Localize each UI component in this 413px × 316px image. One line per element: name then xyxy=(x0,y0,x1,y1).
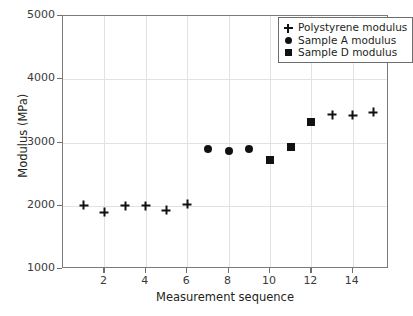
gridline-vertical xyxy=(146,16,147,267)
circle-marker-icon-glyph xyxy=(285,37,292,44)
gridline-vertical xyxy=(187,16,188,267)
x-axis-tick-label: 14 xyxy=(337,275,367,286)
y-axis-tick-label: 5000 xyxy=(27,9,55,20)
legend-entry: Polystyrene modulus xyxy=(283,22,407,34)
plus-marker-icon xyxy=(348,111,357,120)
y-axis-title: Modulus (MPa) xyxy=(18,66,30,206)
x-axis-tick-label: 4 xyxy=(130,275,160,286)
circle-marker-icon xyxy=(225,147,233,155)
y-axis-tick-label: 2000 xyxy=(27,199,55,210)
x-axis-title: Measurement sequence xyxy=(62,292,388,304)
gridline-horizontal xyxy=(63,143,387,144)
plus-marker-icon xyxy=(121,201,130,210)
circle-marker-icon xyxy=(204,145,212,153)
plus-marker-icon xyxy=(283,22,294,33)
x-axis-tick xyxy=(228,268,229,273)
legend-entry: Sample D modulus xyxy=(283,47,407,59)
x-axis-tick xyxy=(186,268,187,273)
square-marker-icon xyxy=(307,118,315,126)
gridline-horizontal xyxy=(63,79,387,80)
plus-marker-icon xyxy=(369,108,378,117)
x-axis-tick-label: 2 xyxy=(88,275,118,286)
gridline-vertical xyxy=(270,16,271,267)
x-axis-tick xyxy=(269,268,270,273)
x-axis-tick xyxy=(145,268,146,273)
x-axis-tick xyxy=(310,268,311,273)
chart-legend: Polystyrene modulusSample A modulusSampl… xyxy=(278,17,413,63)
legend-label: Sample D modulus xyxy=(298,47,397,58)
legend-label: Sample A modulus xyxy=(298,35,396,46)
x-axis-tick xyxy=(103,268,104,273)
gridline-vertical xyxy=(229,16,230,267)
square-marker-icon xyxy=(287,143,295,151)
plus-marker-icon xyxy=(141,201,150,210)
square-marker-icon xyxy=(266,156,274,164)
plus-marker-icon xyxy=(100,208,109,217)
plus-marker-icon xyxy=(162,206,171,215)
square-marker-icon-glyph xyxy=(285,49,292,56)
gridline-vertical xyxy=(104,16,105,267)
x-axis-tick-label: 8 xyxy=(213,275,243,286)
square-marker-icon xyxy=(283,47,294,58)
plus-marker-icon xyxy=(183,200,192,209)
circle-marker-icon xyxy=(245,145,253,153)
plus-marker-icon xyxy=(79,201,88,210)
gridline-horizontal xyxy=(63,206,387,207)
x-axis-tick xyxy=(352,268,353,273)
legend-label: Polystyrene modulus xyxy=(298,22,407,33)
x-axis-tick-label: 10 xyxy=(254,275,284,286)
y-axis-tick-label: 1000 xyxy=(27,262,55,273)
y-axis-tick-label: 4000 xyxy=(27,72,55,83)
circle-marker-icon xyxy=(283,35,294,46)
legend-entry: Sample A modulus xyxy=(283,34,407,46)
x-axis-tick-label: 6 xyxy=(171,275,201,286)
plus-marker-icon xyxy=(328,110,337,119)
x-axis-tick-label: 12 xyxy=(295,275,325,286)
y-axis-tick xyxy=(57,268,62,269)
y-axis-tick-label: 3000 xyxy=(27,136,55,147)
